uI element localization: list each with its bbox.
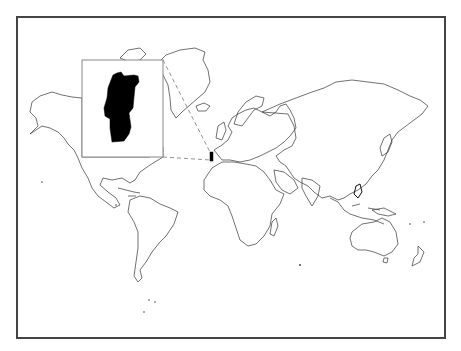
hawaii-island <box>41 181 43 183</box>
greenland-outline <box>158 48 210 118</box>
south-atlantic-island <box>154 301 156 303</box>
pacific-island <box>409 223 411 225</box>
india-outline <box>302 178 320 206</box>
australia-outline <box>350 218 398 256</box>
caribbean-outline <box>118 188 140 196</box>
new-zealand-outline <box>412 246 424 266</box>
galapagos-island <box>115 204 117 206</box>
africa-outline <box>204 162 284 246</box>
southeast-asia-outline <box>330 198 384 224</box>
arabian-peninsula-outline <box>274 170 298 194</box>
south-atlantic-island <box>148 299 150 301</box>
south-atlantic-island <box>143 311 145 313</box>
british-isles-outline <box>216 122 226 140</box>
leader-line-bottom <box>163 157 210 160</box>
europe-outline <box>214 104 296 162</box>
indian-ocean-island <box>299 264 301 266</box>
portugal-marker <box>210 152 213 161</box>
south-america-outline <box>128 196 178 282</box>
tasmania-outline <box>383 258 388 263</box>
leader-line-top <box>163 60 210 152</box>
new-guinea-outline <box>372 208 396 216</box>
asia-outline <box>262 80 428 200</box>
pacific-island <box>423 221 425 223</box>
philippines-outline <box>354 184 362 198</box>
world-map <box>0 0 461 351</box>
iceland-outline <box>196 103 210 111</box>
